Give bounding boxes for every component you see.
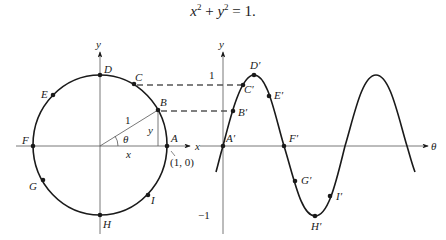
angle-label: θ: [123, 133, 129, 145]
label-E: E: [40, 88, 48, 100]
label-E-prime: E′: [273, 89, 284, 101]
point-H: [98, 213, 103, 218]
leg-x-label: x: [125, 148, 131, 160]
label-G: G: [29, 180, 37, 192]
circle-x-axis-label: x: [194, 140, 200, 152]
label-C-prime: C′: [244, 83, 254, 95]
point-D: [98, 73, 103, 78]
radius-label: 1: [125, 114, 131, 126]
label-I-prime: I′: [335, 190, 343, 202]
sine-theta-axis-label: θ: [431, 140, 437, 152]
label-A: A: [170, 132, 178, 144]
label-B: B: [160, 96, 167, 108]
point-B: [156, 108, 161, 113]
label-F: F: [21, 134, 29, 146]
sine-graph-panel: θ y 1 −1 A′ B′ C′ D′ E′ F′ G′ H′ I′: [198, 38, 437, 234]
circle-y-axis-label: y: [95, 38, 101, 50]
label-H: H: [102, 218, 112, 230]
point-G: [41, 178, 46, 183]
leg-y-label: y: [147, 124, 153, 136]
point-G-prime: [293, 179, 298, 184]
tick-label-neg1: −1: [198, 209, 210, 221]
point-A-coords: (1, 0): [170, 156, 194, 169]
angle-arc: [115, 136, 118, 146]
label-B-prime: B′: [238, 106, 248, 118]
point-A: [165, 144, 170, 149]
point-E: [51, 93, 56, 98]
point-A-prime: [221, 144, 226, 149]
sine-y-axis-label: y: [218, 38, 224, 50]
label-D: D: [103, 63, 112, 75]
unit-circle-panel: x y 1 θ y x A B C D E F G H I (1, 0): [16, 38, 200, 234]
point-I-prime: [328, 194, 333, 199]
unit-circle-sine-diagram: x y 1 θ y x A B C D E F G H I (1, 0): [0, 0, 446, 240]
label-C: C: [135, 71, 143, 83]
point-B-prime: [231, 109, 236, 114]
point-D-prime: [252, 73, 257, 78]
label-F-prime: F′: [288, 132, 299, 144]
point-I: [146, 193, 151, 198]
label-H-prime: H′: [310, 220, 322, 232]
point-F: [31, 144, 36, 149]
point-E-prime: [267, 94, 272, 99]
point-H-prime: [313, 214, 318, 219]
tick-label-1: 1: [209, 69, 215, 81]
label-G-prime: G′: [301, 174, 312, 186]
label-A-prime: A′: [225, 132, 236, 144]
label-D-prime: D′: [249, 59, 261, 71]
point-F-prime: [282, 144, 287, 149]
sine-curve: [216, 75, 415, 216]
label-I: I: [150, 194, 156, 206]
